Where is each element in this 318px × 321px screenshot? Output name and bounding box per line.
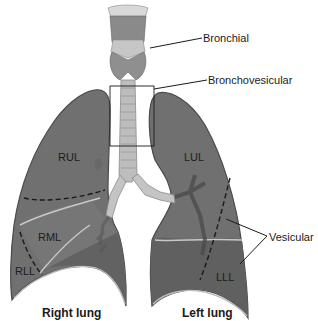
vesicular-label: Vesicular — [269, 231, 314, 243]
vesicular-leader-line-lower — [240, 236, 267, 264]
left-lung — [149, 92, 248, 318]
rml-label: RML — [38, 231, 61, 243]
right-lung-caption: Right lung — [42, 306, 101, 320]
bronchovesicular-label: Bronchovesicular — [208, 74, 293, 86]
trachea — [119, 80, 137, 182]
lul-label: LUL — [184, 151, 204, 163]
larynx — [108, 5, 148, 80]
lung-auscultation-diagram: Bronchial Bronchovesicular Vesicular RUL… — [0, 0, 318, 321]
bronchovesicular-leader-line — [154, 80, 207, 89]
left-lung-caption: Left lung — [182, 306, 233, 320]
bronchial-label: Bronchial — [203, 32, 249, 44]
rul-label: RUL — [58, 151, 80, 163]
right-main-bronchus — [106, 175, 126, 218]
lll-label: LLL — [216, 271, 234, 283]
bronchial-leader-line — [150, 38, 202, 48]
rll-label: RLL — [15, 265, 35, 277]
